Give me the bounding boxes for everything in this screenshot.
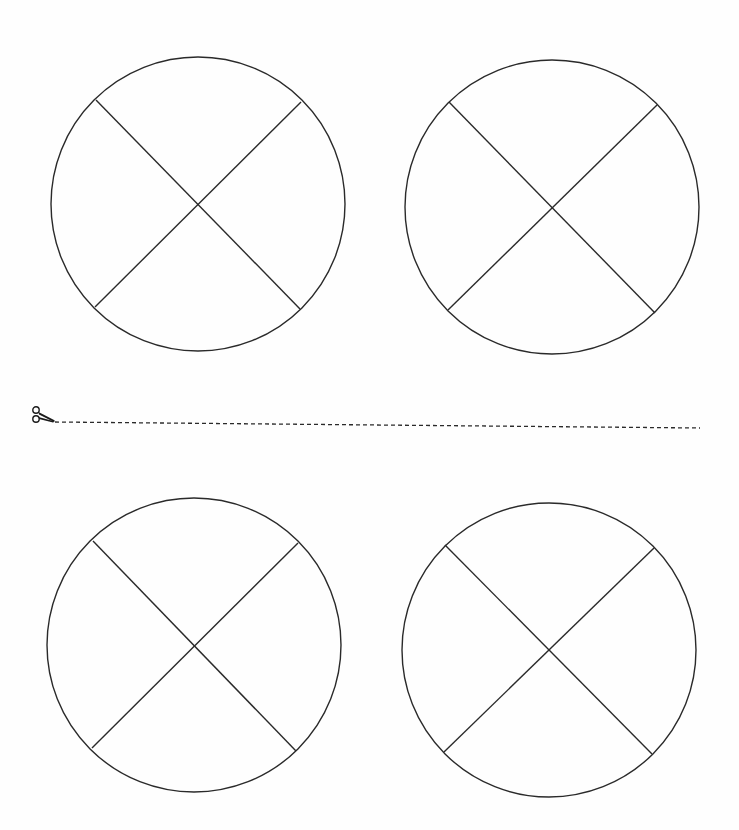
quarter-divider-line bbox=[95, 102, 301, 307]
quarter-divider-line bbox=[445, 545, 652, 754]
printable-page bbox=[0, 0, 739, 830]
scissors-icon bbox=[33, 407, 55, 423]
circle-top-left bbox=[51, 57, 345, 351]
circle-bottom-right bbox=[402, 503, 696, 797]
quarter-divider-line bbox=[448, 105, 657, 310]
quarter-divider-line bbox=[92, 543, 298, 748]
quarter-divider-line bbox=[444, 548, 654, 752]
circle-top-right bbox=[405, 60, 699, 354]
cut-line bbox=[55, 422, 700, 428]
circle-bottom-left bbox=[47, 498, 341, 792]
worksheet-drawing bbox=[0, 0, 739, 830]
dashed-cut-line bbox=[55, 422, 700, 428]
